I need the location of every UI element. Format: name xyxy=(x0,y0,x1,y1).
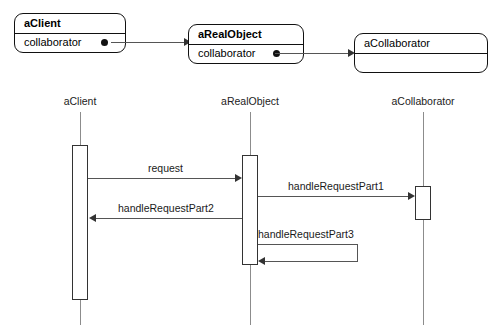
activation-bar-arealobject xyxy=(242,155,258,265)
message-label-handlerequestpart1: handleRequestPart1 xyxy=(288,180,384,192)
uml-diagram-canvas: aClient collaborator aRealObject collabo… xyxy=(0,0,502,336)
message-line-handlerequestpart1 xyxy=(258,196,411,197)
object-box-aclient-title: aClient xyxy=(15,14,125,34)
link-aclient-to-arealobject xyxy=(111,42,186,43)
object-box-acollaborator[interactable]: aCollaborator xyxy=(354,33,488,73)
self-message-line-bottom xyxy=(265,261,358,262)
activation-bar-acollaborator xyxy=(415,186,431,220)
message-line-request xyxy=(88,178,238,179)
self-message-line-right xyxy=(357,244,358,261)
link-arealobject-to-acollaborator xyxy=(275,53,350,54)
message-arrowhead-handlerequestpart2 xyxy=(89,214,96,222)
object-box-aclient[interactable]: aClient collaborator xyxy=(14,13,126,53)
object-box-arealobject-title: aRealObject xyxy=(189,25,303,45)
message-label-handlerequestpart2: handleRequestPart2 xyxy=(118,202,214,214)
message-arrowhead-handlerequestpart1 xyxy=(408,192,415,200)
message-arrowhead-request xyxy=(235,174,242,182)
object-box-acollaborator-attribute xyxy=(355,53,487,72)
object-box-acollaborator-title: aCollaborator xyxy=(355,34,487,54)
activation-bar-aclient xyxy=(72,145,88,300)
lifeline-label-aclient: aClient xyxy=(64,95,97,107)
message-label-handlerequestpart3: handleRequestPart3 xyxy=(258,228,354,240)
self-message-line-top xyxy=(258,244,358,245)
message-label-request: request xyxy=(148,162,183,174)
object-box-aclient-attribute: collaborator xyxy=(15,33,125,52)
lifeline-label-acollaborator: aCollaborator xyxy=(391,95,454,107)
reference-dot-aclient xyxy=(101,39,108,46)
message-line-handlerequestpart2 xyxy=(96,218,242,219)
object-box-arealobject[interactable]: aRealObject collaborator xyxy=(188,24,304,64)
lifeline-label-arealobject: aRealObject xyxy=(221,95,279,107)
self-message-arrowhead xyxy=(258,257,265,265)
